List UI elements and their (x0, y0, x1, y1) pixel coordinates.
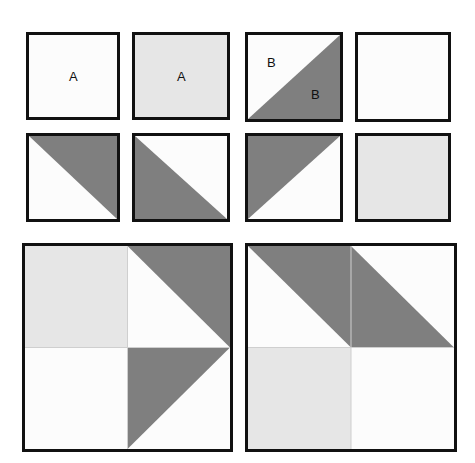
tile-row1-col2-label: A (177, 70, 186, 83)
tile-row1-col3-graphic (248, 35, 340, 119)
tile-row2-col2 (132, 133, 230, 222)
tile-row1-col4 (355, 32, 451, 122)
composite-tile-left (22, 243, 233, 452)
tile-row2-col1-graphic (29, 136, 117, 219)
composite-tile-right-graphic (248, 246, 454, 449)
tile-row1-col3 (245, 32, 343, 122)
tile-row2-col3 (245, 133, 343, 222)
tile-row1-col3-label-upper: B (267, 56, 276, 69)
figure-canvas: A A B B (0, 0, 475, 463)
tile-row2-col1 (26, 133, 120, 222)
tile-row1-col4-graphic (358, 35, 448, 119)
tile-row1-col3-label-lower: B (311, 88, 320, 101)
tile-row1-col1-label: A (69, 70, 78, 83)
tile-row2-col2-graphic (135, 136, 227, 219)
tile-row2-col3-graphic (248, 136, 340, 219)
tile-row2-col4 (355, 133, 451, 222)
composite-tile-right (245, 243, 457, 452)
composite-tile-left-graphic (25, 246, 230, 449)
tile-row2-col4-graphic (358, 136, 448, 219)
